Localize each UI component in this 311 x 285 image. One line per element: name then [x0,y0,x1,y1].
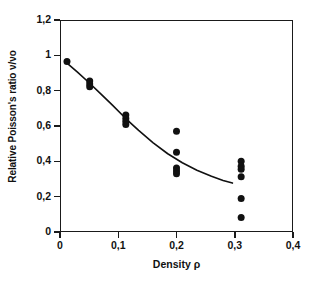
x-tick-label: 0 [40,240,80,251]
x-tick-label: 0,3 [215,240,255,251]
y-tick-label: 1 [11,49,51,60]
poissons-ratio-scatter-chart: Relative Poisson's ratio ν/νo 00,20,40,6… [0,0,311,285]
x-tick-mark [292,232,294,238]
x-tick-mark [176,232,178,238]
plot-area [60,20,293,232]
y-tick-mark [54,55,60,57]
x-tick-label: 0,4 [273,240,311,251]
x-tick-mark [234,232,236,238]
y-tick-label: 0,2 [11,191,51,202]
y-tick-label: 0,8 [11,85,51,96]
x-tick-label: 0,1 [98,240,138,251]
y-tick-label: 1,2 [11,14,51,25]
y-tick-mark [54,90,60,92]
x-axis-title-text: Density ρ [153,258,200,270]
x-tick-label: 0,2 [157,240,197,251]
y-tick-mark [54,161,60,163]
y-tick-label: 0 [11,226,51,237]
x-tick-mark [118,232,120,238]
x-axis-title: Density ρ [60,258,293,270]
y-tick-mark [54,19,60,21]
y-tick-label: 0,6 [11,120,51,131]
y-tick-label: 0,4 [11,155,51,166]
y-tick-mark [54,125,60,127]
y-tick-mark [54,196,60,198]
x-tick-mark [59,232,61,238]
